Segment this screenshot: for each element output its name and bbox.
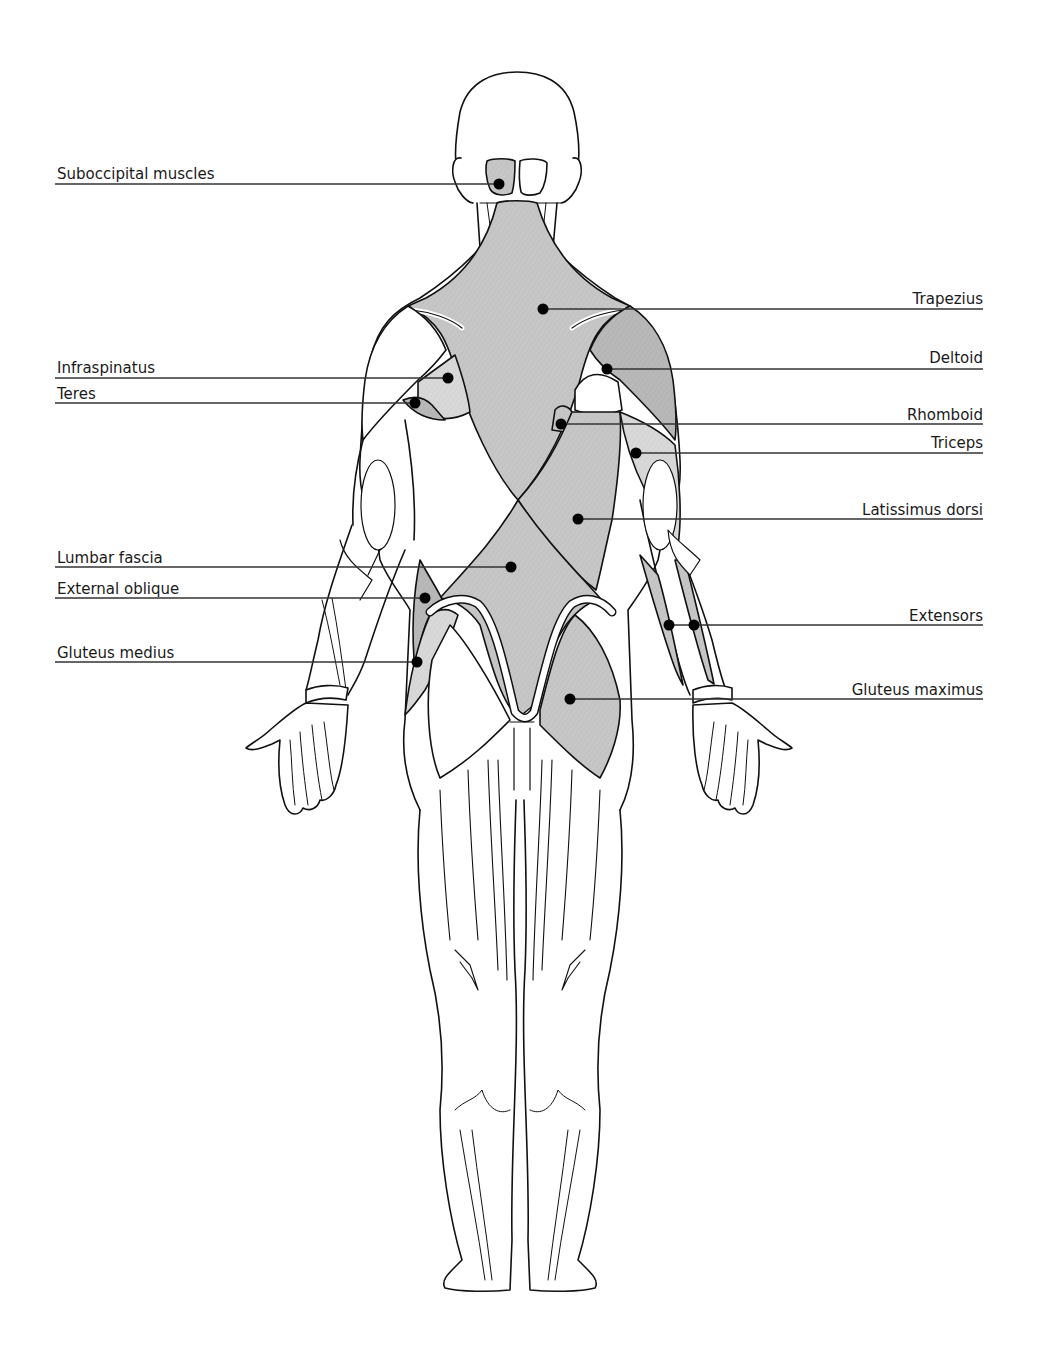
label-trapezius: Trapezius <box>913 292 983 307</box>
suboccipital-muscle-right <box>519 159 547 195</box>
marker-dot-extensors <box>689 620 700 631</box>
marker-dot-extensors <box>664 620 675 631</box>
marker-dot-external-oblique <box>420 593 431 604</box>
legs <box>418 760 622 1291</box>
marker-dot-triceps <box>631 448 642 459</box>
anatomy-diagram: Suboccipital muscles Infraspinatus Teres… <box>0 0 1038 1369</box>
label-external-oblique: External oblique <box>57 582 179 597</box>
label-suboccipital-muscles: Suboccipital muscles <box>57 167 214 182</box>
marker-dot-gluteus-maximus <box>565 694 576 705</box>
marker-dot-latissimus-dorsi <box>573 514 584 525</box>
label-rhomboid: Rhomboid <box>907 408 983 423</box>
marker-dot-rhomboid <box>556 419 567 430</box>
marker-dot-lumbar-fascia <box>506 562 517 573</box>
label-triceps: Triceps <box>931 436 983 451</box>
label-teres: Teres <box>57 387 96 402</box>
right-hand <box>693 703 792 814</box>
extensors-muscle <box>640 555 683 685</box>
label-infraspinatus: Infraspinatus <box>57 361 155 376</box>
label-deltoid: Deltoid <box>929 351 983 366</box>
label-lumbar-fascia: Lumbar fascia <box>57 551 163 566</box>
label-latissimus-dorsi: Latissimus dorsi <box>862 503 983 518</box>
marker-dot-gluteus-medius <box>412 657 423 668</box>
marker-dot-trapezius <box>538 304 549 315</box>
marker-dot-deltoid <box>602 364 613 375</box>
label-gluteus-medius: Gluteus medius <box>57 646 174 661</box>
label-extensors: Extensors <box>909 609 983 624</box>
marker-dot-infraspinatus <box>443 373 454 384</box>
marker-dot-suboccipital <box>494 179 505 190</box>
label-gluteus-maximus: Gluteus maximus <box>852 683 983 698</box>
suboccipital-muscle-left <box>486 159 515 195</box>
marker-dot-teres <box>410 398 421 409</box>
left-hand <box>246 703 348 814</box>
